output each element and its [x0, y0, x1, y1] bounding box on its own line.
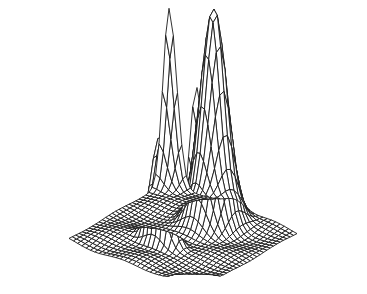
- surface-plot: [0, 0, 367, 294]
- wireframe-mesh: [69, 8, 297, 276]
